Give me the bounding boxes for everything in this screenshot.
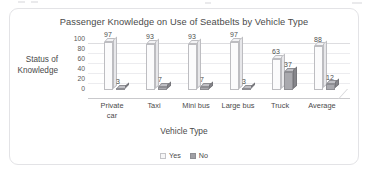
bar-yes-truck[interactable] xyxy=(272,59,281,91)
bar-group-taxi: 93 7 xyxy=(146,39,186,90)
y-tick-60: 60 xyxy=(77,56,85,63)
plot-floor xyxy=(88,90,350,99)
bar-front-face xyxy=(200,87,209,91)
scan-artifact-center xyxy=(205,2,211,4)
value-label-yes-taxi: 93 xyxy=(146,33,154,40)
chart-card: Passenger Knowledge on Use of Seatbelts … xyxy=(9,8,359,165)
value-label-yes-average: 88 xyxy=(314,36,322,43)
bar-front-face xyxy=(230,42,239,91)
legend-label-yes: Yes xyxy=(169,152,181,159)
bar-yes-private-car[interactable] xyxy=(104,42,113,91)
scan-artifact-right xyxy=(352,2,362,4)
y-tick-40: 40 xyxy=(77,66,85,73)
bar-front-face xyxy=(158,87,167,91)
value-label-no-large-bus: 3 xyxy=(242,78,246,85)
category-label-line1: Average xyxy=(299,101,345,111)
bar-front-face xyxy=(284,72,293,91)
y-tick-20: 20 xyxy=(77,76,85,83)
bar-no-mini-bus[interactable] xyxy=(200,87,209,91)
category-label-truck: Truck xyxy=(257,101,303,111)
y-axis-ticks: 100 80 60 40 20 0 xyxy=(58,35,85,99)
value-label-no-mini-bus: 7 xyxy=(200,76,204,83)
bar-no-private-car[interactable] xyxy=(116,89,125,91)
bar-no-large-bus[interactable] xyxy=(242,89,251,91)
scan-artifact-left xyxy=(18,1,25,3)
category-axis-labels: Private car Taxi Mini bus Large bus Truc… xyxy=(88,101,350,123)
floor-depth-edge xyxy=(338,89,359,99)
category-label-line1: Taxi xyxy=(131,101,177,111)
legend-swatch-no-icon xyxy=(190,153,196,159)
x-axis-title: Vehicle Type xyxy=(10,126,358,136)
chart-legend: Yes No xyxy=(10,152,358,159)
bar-front-face xyxy=(242,88,251,90)
legend-swatch-yes-icon xyxy=(160,153,166,159)
y-tick-100: 100 xyxy=(74,36,85,43)
bar-yes-taxi[interactable] xyxy=(146,44,155,91)
category-label-average: Average xyxy=(299,101,345,111)
bar-yes-large-bus[interactable] xyxy=(230,42,239,91)
value-label-yes-truck: 63 xyxy=(272,48,280,55)
bar-group-mini-bus: 93 7 xyxy=(188,39,228,90)
bar-side-face xyxy=(323,40,327,88)
y-axis-title-line2: Knowledge xyxy=(12,65,58,76)
category-label-line1: Private xyxy=(89,101,135,111)
bar-side-face xyxy=(335,78,339,88)
y-tick-0: 0 xyxy=(81,86,85,93)
plot-area: 97 3 93 xyxy=(88,39,350,99)
bar-front-face xyxy=(314,46,323,90)
category-label-line1: Large bus xyxy=(215,101,261,111)
bar-side-face xyxy=(293,66,297,88)
value-label-no-truck: 37 xyxy=(284,61,292,68)
bar-front-face xyxy=(272,59,281,91)
y-tick-80: 80 xyxy=(77,46,85,53)
value-label-no-average: 12 xyxy=(326,74,334,81)
bar-side-face xyxy=(209,81,213,88)
value-label-no-taxi: 7 xyxy=(158,76,162,83)
category-label-private-car: Private car xyxy=(89,101,135,120)
bar-front-face xyxy=(326,84,335,90)
bar-no-truck[interactable] xyxy=(284,72,293,91)
value-label-yes-large-bus: 97 xyxy=(230,31,238,38)
bar-yes-average[interactable] xyxy=(314,46,323,90)
category-label-mini-bus: Mini bus xyxy=(173,101,219,111)
category-axis-line xyxy=(88,98,350,99)
bar-no-average[interactable] xyxy=(326,84,335,90)
category-label-large-bus: Large bus xyxy=(215,101,261,111)
value-label-no-private-car: 3 xyxy=(116,78,120,85)
bar-group-private-car: 97 3 xyxy=(104,39,144,90)
category-label-line1: Truck xyxy=(257,101,303,111)
bar-front-face xyxy=(188,44,197,91)
bar-front-face xyxy=(116,88,125,90)
chart-title: Passenger Knowledge on Use of Seatbelts … xyxy=(10,17,358,27)
bar-front-face xyxy=(104,42,113,91)
y-axis-title-line1: Status of xyxy=(12,54,58,65)
category-label-line1: Mini bus xyxy=(173,101,219,111)
category-label-line2: car xyxy=(89,111,135,121)
bar-group-average: 88 12 xyxy=(314,39,354,90)
value-label-yes-mini-bus: 93 xyxy=(188,33,196,40)
legend-item-yes[interactable]: Yes xyxy=(160,152,181,159)
legend-item-no[interactable]: No xyxy=(190,152,208,159)
legend-label-no: No xyxy=(199,152,208,159)
bar-group-large-bus: 97 3 xyxy=(230,39,270,90)
scan-artifact-left-2 xyxy=(31,1,38,3)
y-axis-title: Status of Knowledge xyxy=(12,54,58,76)
bar-yes-mini-bus[interactable] xyxy=(188,44,197,91)
bar-side-face xyxy=(167,81,171,88)
bar-group-truck: 63 37 xyxy=(272,39,312,90)
value-label-yes-private-car: 97 xyxy=(104,31,112,38)
bar-no-taxi[interactable] xyxy=(158,87,167,91)
category-label-taxi: Taxi xyxy=(131,101,177,111)
bar-front-face xyxy=(146,44,155,91)
